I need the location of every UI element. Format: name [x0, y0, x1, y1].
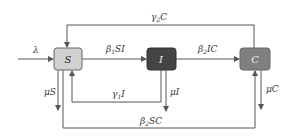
label-mu-c: μC: [266, 84, 279, 94]
label-beta2-ic: β2IC: [197, 44, 218, 55]
label-beta2-sc: β2SC: [139, 116, 162, 127]
label-mu-i: μI: [170, 87, 180, 97]
label-gamma1-i: γ1I: [112, 89, 125, 100]
node-c: C: [240, 48, 270, 70]
node-s-label: S: [65, 54, 72, 65]
node-s: S: [54, 48, 82, 70]
edge-gamma2-c: γ2C: [67, 12, 254, 48]
node-c-label: C: [251, 54, 259, 65]
edge-beta1-si: β1SI: [82, 44, 146, 59]
edge-beta2-sc: β2SC: [63, 70, 255, 128]
edge-mu-i: μI: [166, 70, 180, 111]
edge-lambda: λ: [18, 45, 53, 59]
compartment-diagram: γ2C λ β1SI β2IC μS γ1I μI β2SC μC: [0, 0, 292, 139]
label-mu-s: μS: [44, 87, 56, 97]
edge-gamma1-i: γ1I: [72, 70, 161, 102]
label-gamma2-c: γ2C: [151, 12, 167, 23]
label-lambda: λ: [32, 45, 39, 55]
edge-mu-c: μC: [261, 70, 279, 109]
label-beta1-si: β1SI: [105, 44, 125, 55]
edge-mu-s: μS: [44, 70, 58, 110]
node-i: I: [147, 48, 176, 70]
edge-beta2-ic: β2IC: [176, 44, 239, 59]
